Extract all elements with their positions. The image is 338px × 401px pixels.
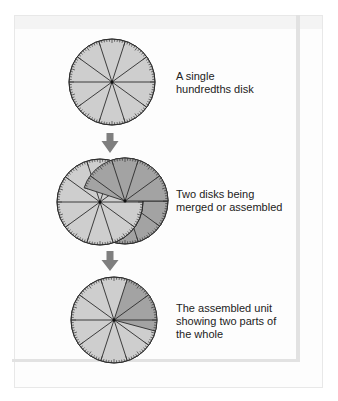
caption-line: hundredths disk [176, 83, 306, 96]
caption-assembled-unit: The assembled unit showing two parts of … [176, 302, 306, 341]
caption-line: Two disks being [176, 188, 306, 201]
down-arrow-icon [102, 251, 119, 271]
caption-line: the whole [176, 328, 306, 341]
single-hundredths-disk [69, 39, 155, 125]
assembled-disk [71, 277, 157, 363]
caption-line: showing two parts of [176, 315, 306, 328]
caption-line: A single [176, 70, 306, 83]
caption-merging-disks: Two disks being merged or assembled [176, 188, 306, 214]
caption-line: merged or assembled [176, 201, 306, 214]
caption-line: The assembled unit [176, 302, 306, 315]
merging-disks [57, 158, 168, 245]
caption-single-disk: A single hundredths disk [176, 70, 306, 96]
down-arrow-icon [102, 133, 119, 153]
